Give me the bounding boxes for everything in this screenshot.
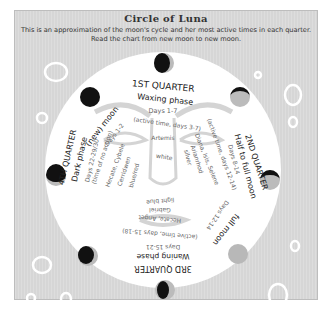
bubble-icon xyxy=(285,85,301,105)
third-quarter-title: 3RD QUARTER xyxy=(134,264,192,273)
bubble-icon xyxy=(269,284,287,306)
moon-waning-icon xyxy=(78,246,98,266)
bubble-icon xyxy=(255,72,261,78)
moon-first-quarter-icon xyxy=(154,53,174,73)
first-quarter-deity: Artemis xyxy=(151,134,174,141)
bubble-icon xyxy=(33,257,51,273)
bubble-icon xyxy=(27,294,35,302)
moon-new-icon xyxy=(80,87,100,107)
bubble-icon xyxy=(61,293,71,305)
moon-full-icon xyxy=(228,244,248,264)
first-quarter-days: Days 1-7 xyxy=(149,107,178,115)
bubble-icon xyxy=(37,113,47,123)
bubble-icon xyxy=(291,241,299,251)
moon-waxing-crescent-icon xyxy=(230,87,250,107)
moon-third-quarter-icon xyxy=(155,280,175,300)
bubble-icon xyxy=(289,117,297,127)
third-quarter-phase: Waning phase xyxy=(136,252,189,261)
moon-circle-diagram: 1ST QUARTER Waxing phase Days 1-7 (activ… xyxy=(0,0,322,320)
third-quarter-deity-2: Gabriel xyxy=(149,207,171,214)
third-quarter-days: Days 15-21 xyxy=(146,243,180,251)
bubble-icon xyxy=(45,63,67,81)
